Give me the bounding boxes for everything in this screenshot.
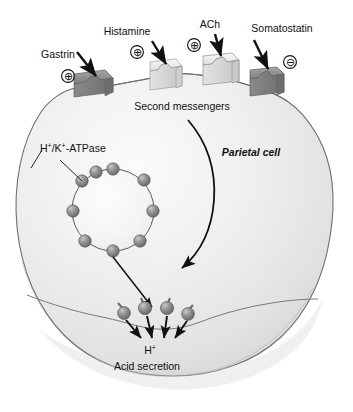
proton-sup: + [152,344,156,351]
membrane-atpase-pump [118,307,131,320]
atpase-pump [90,166,102,178]
arrow-histamine [152,41,166,64]
label-parietal-cell: Parietal cell [222,146,281,158]
atpase-pump [107,163,119,175]
atpase-pump [107,245,119,257]
sign-gastrin-glyph: ⊕ [64,70,73,82]
receptor-ach-side [232,60,239,83]
label-somatostatin: Somatostatin [251,22,312,34]
arrow-somatostatin [254,40,268,69]
atpase-end: -ATPase [66,142,106,154]
sign-histamine-plus: ⊕ [131,46,144,59]
receptor-ach[interactable] [203,53,239,85]
label-acid-secretion: Acid secretion [114,360,180,372]
diagram-canvas: Gastrin Histamine ACh Somatostatin ⊕ ⊕ ⊕… [0,0,353,412]
cell-outline [16,73,333,376]
membrane-atpase-pump [160,301,173,314]
sign-somatostatin-glyph: ⊖ [286,56,295,68]
atpase-pump [134,235,146,247]
parietal-cell-figure: Gastrin Histamine ACh Somatostatin ⊕ ⊕ ⊕… [0,0,353,412]
atpase-pump [79,235,91,247]
sign-somatostatin-minus: ⊖ [284,56,297,69]
atpase-pump [138,174,150,186]
label-histamine: Histamine [104,25,151,37]
atpase-pump [147,205,159,217]
label-ach: ACh [200,18,221,30]
parietal-cell-body [16,73,333,389]
receptor-histamine-side [176,66,182,88]
proton-h: H [144,344,152,356]
sign-histamine-glyph: ⊕ [133,46,142,58]
arrow-ach [215,34,221,56]
receptor-somatostatin[interactable] [250,67,284,96]
tubulovesicle [67,163,159,257]
label-second-messengers: Second messengers [134,100,230,112]
receptor-somatostatin-side [277,74,284,95]
sign-ach-glyph: ⊕ [190,39,199,51]
atpase-mid: /K [52,142,62,154]
atpase-pump [67,205,79,217]
atpase-h: H [40,142,48,154]
label-gastrin: Gastrin [41,48,75,60]
sign-gastrin-plus: ⊕ [62,70,75,83]
membrane-atpase-pump [138,301,151,314]
sign-ach-plus: ⊕ [188,39,201,52]
membrane-atpase-pump [182,308,195,321]
